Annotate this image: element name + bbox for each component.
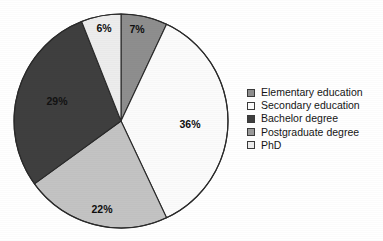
- legend-item-label: PhD: [261, 139, 281, 152]
- legend-item-label: Secondary education: [261, 99, 360, 112]
- legend-swatch-icon: [247, 89, 255, 97]
- legend-item-bachelor-degree[interactable]: Bachelor degree: [247, 112, 383, 125]
- pie-slice-value-label: 29%: [46, 95, 67, 107]
- pie-slice-value-label: 7%: [129, 23, 144, 35]
- legend-item-secondary-education[interactable]: Secondary education: [247, 99, 383, 112]
- legend-swatch-icon: [247, 115, 255, 123]
- legend-item-phd[interactable]: PhD: [247, 139, 383, 152]
- pie-chart-graphic: [0, 0, 246, 241]
- pie-slice-value-label: 6%: [96, 22, 111, 34]
- chart-legend: Elementary education Secondary education…: [247, 86, 383, 152]
- legend-item-label: Bachelor degree: [261, 112, 338, 125]
- pie-slice-value-label: 36%: [179, 118, 200, 130]
- legend-swatch-icon: [247, 102, 255, 110]
- pie-chart-figure: 7%36%22%29%6% Elementary education Secon…: [0, 0, 383, 241]
- legend-swatch-icon: [247, 128, 255, 136]
- pie-slice-value-label: 22%: [91, 203, 112, 215]
- legend-item-elementary-education[interactable]: Elementary education: [247, 86, 383, 99]
- legend-swatch-icon: [247, 141, 255, 149]
- legend-item-postgraduate-degree[interactable]: Postgraduate degree: [247, 126, 383, 139]
- legend-item-label: Postgraduate degree: [261, 126, 359, 139]
- legend-item-label: Elementary education: [261, 86, 363, 99]
